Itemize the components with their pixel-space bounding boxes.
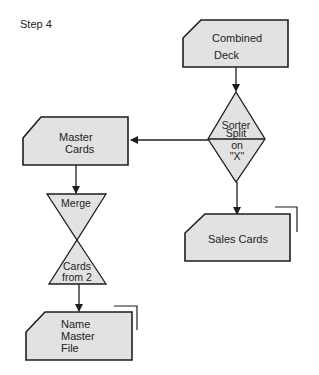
- combined-deck-card: Combined Deck: [183, 20, 288, 67]
- sales-cards-card: Sales Cards: [185, 207, 297, 261]
- name-master-file-card: Name Master File: [26, 306, 137, 360]
- sorter-decision-diamond: Sorter Split on "X": [208, 92, 265, 182]
- sorter-label-4: "X": [230, 150, 245, 162]
- name-master-file-label-2: Master: [61, 330, 95, 342]
- name-master-file-label-1: Name: [61, 318, 90, 330]
- master-cards-label-1: Master: [59, 131, 93, 143]
- merge-label: Merge: [61, 197, 91, 209]
- combined-deck-label-1: Combined: [212, 32, 262, 44]
- combined-deck-label-2: Deck: [214, 49, 240, 61]
- sorter-label-2: Split: [226, 127, 247, 139]
- master-cards-label-2: Cards: [65, 143, 95, 155]
- name-master-file-label-3: File: [61, 342, 79, 354]
- sales-cards-label: Sales Cards: [208, 233, 268, 245]
- flowchart-diagram: Step 4 Combined Deck Sorter Split on "X": [0, 0, 319, 375]
- merge-bottom-label-2: from 2: [62, 271, 92, 283]
- merge-symbol: Merge Cards from 2: [47, 194, 106, 284]
- step-title: Step 4: [20, 18, 52, 30]
- master-cards-card: Master Cards: [23, 117, 128, 165]
